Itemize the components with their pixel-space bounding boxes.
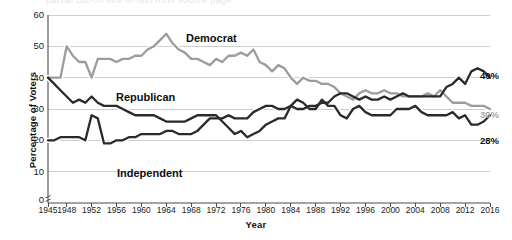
x-tick-2000: 2000	[381, 206, 400, 215]
x-tick-1945: 1945	[39, 206, 58, 215]
x-tick-1956: 1956	[107, 206, 126, 215]
series-halos	[48, 34, 490, 144]
x-tick-1976: 1976	[232, 206, 251, 215]
x-tick-2008: 2008	[431, 206, 450, 215]
x-tick-1964: 1964	[157, 206, 176, 215]
voter-party-identification-chart: partial cut-off line of text from source…	[0, 0, 512, 240]
series-label-republican: Republican	[116, 92, 175, 103]
end-label-independent: 40%	[480, 71, 499, 81]
end-label-republican: 28%	[480, 136, 499, 146]
x-tick-1972: 1972	[207, 206, 226, 215]
x-tick-2004: 2004	[406, 206, 425, 215]
x-tick-1984: 1984	[281, 206, 300, 215]
x-tick-2016: 2016	[481, 206, 500, 215]
end-label-democrat: 30%	[480, 110, 499, 120]
x-axis-title: Year	[0, 219, 512, 230]
x-tick-1960: 1960	[132, 206, 151, 215]
x-tick-1952: 1952	[82, 206, 101, 215]
x-tick-1948: 1948	[57, 206, 76, 215]
x-tick-1996: 1996	[356, 206, 375, 215]
x-tick-1968: 1968	[182, 206, 201, 215]
series-lines	[48, 34, 490, 144]
chart-canvas	[0, 0, 512, 240]
x-tick-1992: 1992	[331, 206, 350, 215]
x-tick-1980: 1980	[256, 206, 275, 215]
series-label-independent: Independent	[117, 168, 182, 179]
x-tick-1988: 1988	[306, 206, 325, 215]
series-label-democrat: Democrat	[186, 33, 237, 44]
x-tick-2012: 2012	[456, 206, 475, 215]
